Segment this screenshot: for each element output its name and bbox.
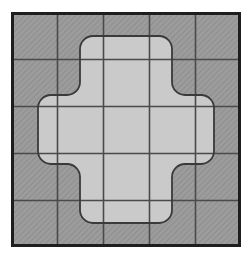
figure-root: Hatched square grid with inscribed round… xyxy=(0,0,251,259)
geometry-figure xyxy=(0,0,251,259)
